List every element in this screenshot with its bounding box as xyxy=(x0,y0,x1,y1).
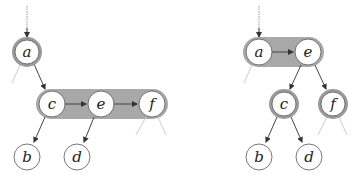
node-c: c xyxy=(269,89,299,119)
node-label: a xyxy=(23,43,32,61)
right-tree: a e c f b d xyxy=(243,6,348,170)
node-d: d xyxy=(64,144,90,170)
tree-rotation-diagram: a c e f b d xyxy=(0,0,357,179)
subtree-stub xyxy=(318,117,327,135)
node-f: f xyxy=(318,89,348,119)
node-b: b xyxy=(14,144,40,170)
subtree-stub xyxy=(158,117,166,135)
node-label: c xyxy=(280,95,289,113)
node-label: a xyxy=(255,43,264,61)
node-a: a xyxy=(12,37,42,67)
edge-e-f xyxy=(315,65,326,89)
node-label: e xyxy=(304,43,313,61)
edge-e-c xyxy=(290,65,301,89)
node-d: d xyxy=(296,144,322,170)
node-label: e xyxy=(97,95,106,113)
node-label: b xyxy=(22,148,32,166)
left-tree: a c e f b d xyxy=(12,6,168,170)
subtree-stub xyxy=(12,65,20,83)
node-label: d xyxy=(304,148,314,166)
edge-c-b xyxy=(266,117,277,142)
node-e: e xyxy=(295,39,321,65)
node-label: c xyxy=(48,95,57,113)
node-b: b xyxy=(246,144,272,170)
edge-c-d xyxy=(291,117,302,142)
subtree-stub xyxy=(136,117,146,135)
edge-e-d xyxy=(84,117,94,142)
node-label: b xyxy=(254,148,264,166)
subtree-stub xyxy=(244,65,252,83)
node-f: f xyxy=(139,91,165,117)
node-label: d xyxy=(72,148,82,166)
subtree-stub xyxy=(339,117,347,135)
node-a: a xyxy=(246,39,272,65)
edge-a-c xyxy=(34,64,45,89)
node-c: c xyxy=(39,91,65,117)
node-e: e xyxy=(88,91,114,117)
edge-c-b xyxy=(34,117,45,142)
